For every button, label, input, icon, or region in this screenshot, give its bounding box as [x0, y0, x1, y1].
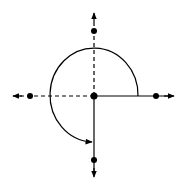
axis-left [13, 93, 94, 99]
axis-up [91, 13, 97, 96]
axis-right [94, 93, 174, 99]
dot-right [153, 93, 159, 99]
dot-left [27, 93, 33, 99]
center-dot [91, 93, 98, 100]
dot-up [91, 28, 97, 34]
axis-down [91, 96, 97, 177]
rotation-diagram [0, 0, 183, 190]
dot-down [91, 157, 97, 163]
